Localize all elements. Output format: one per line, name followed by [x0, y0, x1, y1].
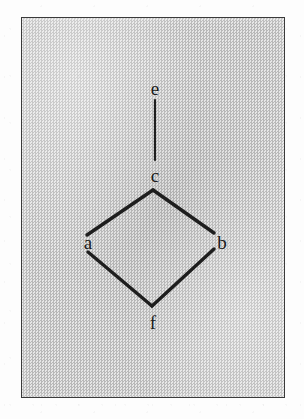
panel-edge-vignette [22, 18, 284, 397]
scanned-page: e c a b f [0, 0, 304, 419]
node-label-a: a [80, 233, 96, 252]
node-label-b: b [214, 233, 230, 252]
node-label-c: c [147, 166, 163, 185]
node-label-e: e [147, 79, 163, 98]
diagram-panel [21, 17, 285, 398]
panel-scan-noise [22, 18, 284, 397]
node-label-f: f [145, 313, 161, 332]
